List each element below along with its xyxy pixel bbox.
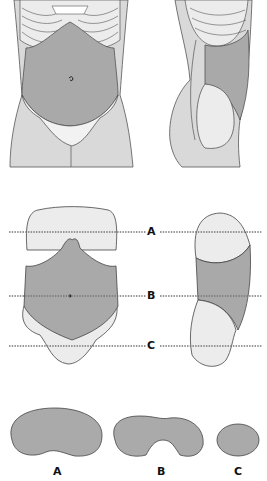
frontal-torso-illustration — [10, 0, 133, 167]
frontal-schematic — [23, 207, 118, 364]
cross-section-c — [217, 424, 259, 456]
cross-section-label-a: A — [53, 466, 62, 477]
cross-section-label-b: B — [157, 466, 165, 477]
cross-section-label-c: C — [234, 466, 242, 477]
cross-section-a — [11, 408, 102, 456]
lateral-schematic — [190, 213, 250, 366]
cross-sections — [11, 408, 259, 456]
level-label-b: B — [147, 290, 155, 301]
lateral-torso-illustration — [170, 0, 252, 167]
cross-section-b — [114, 416, 203, 456]
level-label-a: A — [147, 226, 156, 237]
level-label-c: C — [147, 340, 155, 351]
diagram-canvas — [0, 0, 267, 481]
